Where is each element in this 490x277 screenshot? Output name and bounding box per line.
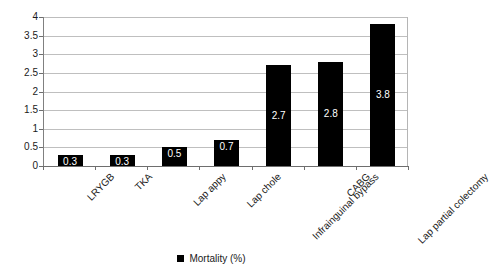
x-tick-mark	[408, 166, 409, 170]
bar-value-label: 0.5	[162, 148, 187, 159]
gridline	[44, 17, 407, 18]
bar: 0.7	[214, 140, 239, 166]
gridline	[44, 129, 407, 130]
plot-area: 0.30.30.50.72.72.83.8	[43, 17, 408, 166]
legend-swatch-icon	[177, 255, 184, 262]
bar: 2.7	[266, 65, 291, 166]
x-axis-line	[43, 166, 409, 167]
bar: 3.8	[370, 24, 395, 166]
y-tick-label: 2	[32, 87, 38, 97]
bar-value-label: 3.8	[370, 89, 395, 100]
gridline	[44, 92, 407, 93]
y-tick-label: 3.5	[24, 31, 38, 41]
gridline	[44, 73, 407, 74]
x-category-label: Lap appy	[191, 171, 228, 208]
y-tick-label: 3	[32, 49, 38, 59]
gridline	[44, 36, 407, 37]
bar-value-label: 0.7	[214, 141, 239, 152]
x-category-label: LRYGB	[85, 171, 117, 203]
bar: 2.8	[318, 62, 343, 166]
y-tick-label: 1.5	[24, 105, 38, 115]
y-tick-label: 0.5	[24, 142, 38, 152]
x-tick-mark	[43, 166, 44, 170]
x-tick-mark	[147, 166, 148, 170]
x-tick-mark	[199, 166, 200, 170]
x-category-label: Lap partial colectomy	[416, 171, 490, 246]
y-tick-label: 4	[32, 12, 38, 22]
bar-value-label: 2.8	[318, 108, 343, 119]
y-tick-label: 0	[32, 161, 38, 171]
bar-value-label: 2.7	[266, 110, 291, 121]
x-category-label: TKA	[133, 171, 155, 193]
x-tick-mark	[95, 166, 96, 170]
bar: 0.3	[58, 155, 83, 166]
gridline	[44, 54, 407, 55]
y-axis: 00.511.522.533.54	[0, 0, 38, 277]
x-tick-mark	[252, 166, 253, 170]
bar: 0.3	[110, 155, 135, 166]
chart-legend: Mortality (%)	[0, 253, 423, 264]
x-tick-mark	[304, 166, 305, 170]
x-category-label: Lap chole	[244, 171, 282, 209]
y-tick-label: 2.5	[24, 68, 38, 78]
x-tick-mark	[356, 166, 357, 170]
bar: 0.5	[162, 147, 187, 166]
legend-label: Mortality (%)	[189, 253, 245, 264]
y-tick-label: 1	[32, 124, 38, 134]
gridline	[44, 110, 407, 111]
x-category-label: Infrainguinal bypass	[310, 171, 381, 242]
